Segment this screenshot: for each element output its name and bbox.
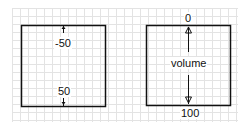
diagram-canvas bbox=[0, 0, 247, 127]
right-bottom-label: 100 bbox=[180, 107, 200, 119]
volume-label: volume bbox=[170, 57, 207, 69]
left-top-label: -50 bbox=[54, 37, 72, 49]
right-top-label: 0 bbox=[184, 12, 192, 24]
left-bottom-arrow-icon bbox=[62, 102, 66, 105]
left-bottom-label: 50 bbox=[57, 85, 71, 97]
left-top-arrow-icon bbox=[62, 26, 66, 29]
